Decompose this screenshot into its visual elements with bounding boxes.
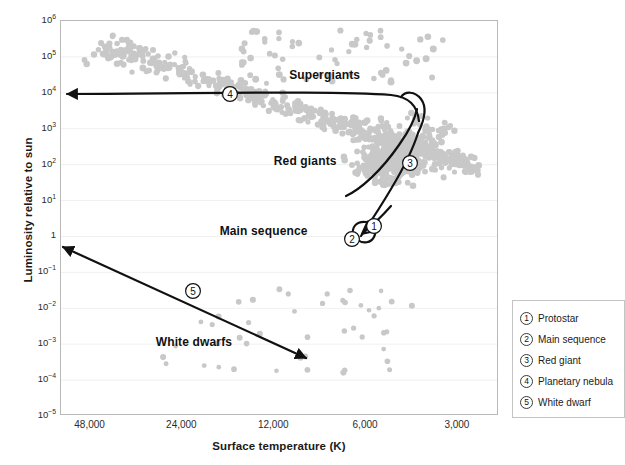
star-point bbox=[290, 39, 295, 44]
star-point bbox=[280, 57, 285, 62]
star-point bbox=[215, 70, 221, 76]
star-point bbox=[379, 289, 384, 294]
star-point bbox=[91, 51, 97, 57]
star-point bbox=[272, 52, 278, 58]
legend-item-main-sequence[interactable]: 2Main sequence bbox=[520, 329, 624, 350]
star-point bbox=[367, 38, 373, 44]
star-point bbox=[361, 154, 368, 161]
star-point bbox=[379, 171, 384, 176]
star-point bbox=[331, 124, 337, 130]
star-point bbox=[373, 162, 379, 168]
star-point bbox=[237, 335, 243, 341]
hr-diagram-figure: Luminosity relative to sun Surface tempe… bbox=[0, 0, 625, 465]
star-point bbox=[320, 301, 325, 306]
star-point bbox=[357, 120, 363, 126]
y-tick-label: 103 bbox=[10, 123, 56, 133]
y-tick-label: 106 bbox=[10, 15, 56, 25]
star-point bbox=[376, 306, 381, 311]
star-point bbox=[379, 123, 385, 129]
y-tick-label: 105 bbox=[10, 51, 56, 61]
star-point bbox=[83, 61, 90, 68]
y-tick-label: 10−3 bbox=[10, 338, 56, 348]
star-point bbox=[147, 60, 153, 66]
star-point bbox=[354, 148, 360, 154]
star-point bbox=[372, 180, 377, 185]
star-point bbox=[347, 288, 353, 294]
star-point bbox=[405, 115, 410, 120]
star-point bbox=[176, 70, 183, 77]
star-point bbox=[354, 37, 359, 42]
star-point bbox=[372, 126, 377, 131]
star-point bbox=[252, 100, 257, 105]
y-tick-label: 104 bbox=[10, 87, 56, 97]
star-point bbox=[418, 165, 423, 170]
star-point bbox=[347, 129, 353, 135]
star-point bbox=[367, 32, 373, 38]
star-point bbox=[287, 110, 293, 116]
star-point bbox=[244, 341, 250, 347]
star-point bbox=[118, 60, 123, 65]
star-point bbox=[471, 155, 477, 161]
star-point bbox=[305, 367, 311, 373]
star-point bbox=[276, 30, 282, 36]
star-point bbox=[154, 69, 160, 75]
star-point bbox=[293, 108, 299, 114]
track-marker-main-sequence: 2 bbox=[345, 232, 360, 247]
star-point bbox=[469, 167, 474, 172]
star-point bbox=[388, 128, 393, 133]
star-point bbox=[417, 36, 423, 42]
star-point bbox=[413, 57, 420, 64]
star-point bbox=[317, 109, 322, 114]
legend-item-label: White dwarf bbox=[538, 397, 591, 408]
legend-item-red-giant[interactable]: 3Red giant bbox=[520, 350, 624, 371]
star-point bbox=[397, 149, 402, 154]
star-point bbox=[332, 57, 338, 63]
star-point bbox=[198, 319, 203, 324]
star-scatter-points bbox=[82, 27, 482, 375]
star-point bbox=[351, 325, 356, 330]
star-point bbox=[380, 147, 386, 153]
star-point bbox=[359, 303, 364, 308]
star-point bbox=[441, 174, 447, 180]
legend-item-label: Planetary nebula bbox=[538, 376, 613, 387]
star-point bbox=[150, 47, 156, 53]
star-point bbox=[475, 172, 481, 178]
y-axis-tick-labels: 106105104103102101110−110−210−310−410−5 bbox=[0, 0, 56, 465]
star-point bbox=[422, 169, 428, 175]
star-point bbox=[385, 133, 391, 139]
star-point bbox=[250, 297, 256, 303]
star-point bbox=[280, 76, 286, 82]
star-point bbox=[242, 40, 248, 46]
star-point bbox=[378, 118, 384, 124]
svg-text:2: 2 bbox=[349, 234, 355, 245]
star-point bbox=[129, 69, 134, 74]
star-point bbox=[102, 43, 108, 49]
star-point bbox=[405, 180, 411, 186]
legend-item-protostar[interactable]: 1Protostar bbox=[520, 308, 624, 329]
star-point bbox=[430, 46, 437, 53]
y-tick-label: 10−1 bbox=[10, 266, 56, 276]
star-point bbox=[172, 50, 177, 55]
star-point bbox=[145, 51, 150, 56]
star-point bbox=[246, 320, 251, 325]
legend-number-badge: 1 bbox=[520, 312, 533, 325]
star-point bbox=[100, 51, 106, 57]
star-point bbox=[408, 135, 414, 141]
chart-canvas: 12345 bbox=[61, 21, 498, 415]
star-point bbox=[286, 291, 291, 296]
star-point bbox=[355, 136, 361, 142]
legend-item-planetary-nebula[interactable]: 4Planetary nebula bbox=[520, 371, 624, 392]
region-label-red-giants: Red giants bbox=[274, 154, 337, 168]
star-point bbox=[391, 169, 397, 175]
star-point bbox=[363, 136, 369, 142]
star-point bbox=[262, 39, 267, 44]
star-point bbox=[113, 53, 118, 58]
star-point bbox=[374, 147, 380, 153]
star-point bbox=[430, 127, 435, 132]
legend-item-white-dwarf[interactable]: 5White dwarf bbox=[520, 392, 624, 413]
star-point bbox=[316, 54, 322, 60]
star-point bbox=[349, 120, 355, 126]
star-point bbox=[341, 153, 348, 160]
star-point bbox=[329, 47, 334, 52]
legend-number-badge: 3 bbox=[520, 354, 533, 367]
